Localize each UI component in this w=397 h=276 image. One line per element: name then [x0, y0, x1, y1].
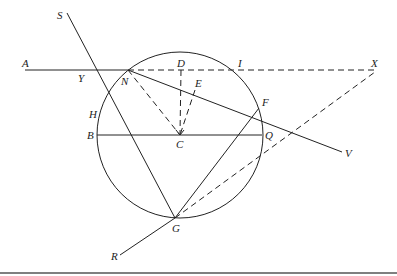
- label-I: I: [237, 57, 243, 69]
- label-V: V: [345, 147, 353, 159]
- label-Y: Y: [78, 72, 86, 84]
- label-Q: Q: [265, 129, 273, 141]
- line-G-F: [175, 108, 259, 218]
- label-R: R: [110, 250, 118, 262]
- label-C: C: [176, 138, 184, 150]
- line-G-R: [120, 218, 175, 255]
- label-N: N: [120, 75, 129, 87]
- label-G: G: [172, 222, 180, 234]
- label-S: S: [57, 9, 63, 21]
- label-X: X: [370, 57, 379, 69]
- line-D-C: [180, 70, 181, 135]
- label-H: H: [88, 108, 98, 120]
- label-A: A: [21, 57, 29, 69]
- label-F: F: [261, 96, 269, 108]
- line-S-G: [67, 13, 175, 218]
- geometry-diagram: A Y N D I X S H E F V B C Q G R: [0, 0, 397, 276]
- line-G-X: [175, 72, 375, 218]
- line-E-C: [180, 90, 195, 135]
- label-D: D: [176, 57, 185, 69]
- label-E: E: [194, 77, 202, 89]
- label-B: B: [87, 129, 94, 141]
